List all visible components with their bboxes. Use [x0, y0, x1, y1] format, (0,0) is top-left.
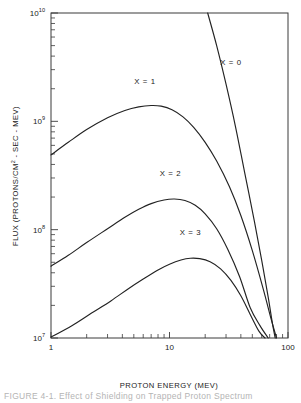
x-axis-title: PROTON ENERGY (MEV) [120, 381, 219, 390]
curve-label-x-1: X = 1 [134, 77, 155, 86]
y-axis-ticks [51, 13, 58, 338]
proton-flux-chart: 1071081091010 110100 X = 0X = 1X = 2X = … [0, 0, 301, 403]
figure-container: 1071081091010 110100 X = 0X = 1X = 2X = … [0, 0, 301, 403]
x-axis-tick-labels: 110100 [49, 343, 295, 352]
x-tick-label: 1 [49, 343, 54, 352]
curve-x-1 [51, 105, 277, 338]
x-axis-ticks [51, 332, 288, 338]
figure-caption: FIGURE 4-1. Effect of Shielding on Trapp… [0, 392, 301, 403]
y-axis-title-pre: FLUX (PROTONS/CM [11, 163, 20, 246]
curve-label-x-0: X = 0 [220, 58, 241, 67]
curve-label-x-2: X = 2 [160, 169, 181, 178]
y-tick-label: 108 [33, 224, 45, 235]
y-axis-tick-labels: 1071081091010 [30, 7, 45, 343]
y-axis-title: FLUX (PROTONS/CM2 - SEC - MEV) [10, 106, 20, 246]
y-tick-label: 107 [33, 332, 45, 343]
y-tick-label: 109 [33, 115, 45, 126]
curve-label-x-3: X = 3 [180, 228, 201, 237]
x-tick-label: 10 [165, 343, 174, 352]
curve-labels: X = 0X = 1X = 2X = 3 [134, 58, 242, 236]
svg-text:FLUX (PROTONS/CM2 - SEC - MEV): FLUX (PROTONS/CM2 - SEC - MEV) [10, 106, 20, 246]
y-tick-label: 1010 [30, 7, 45, 18]
figure-caption-text: FIGURE 4-1. Effect of Shielding on Trapp… [4, 392, 253, 401]
y-axis-title-post: - SEC - MEV) [11, 106, 20, 160]
curve-x-3 [51, 258, 265, 338]
x-tick-label: 100 [281, 343, 295, 352]
